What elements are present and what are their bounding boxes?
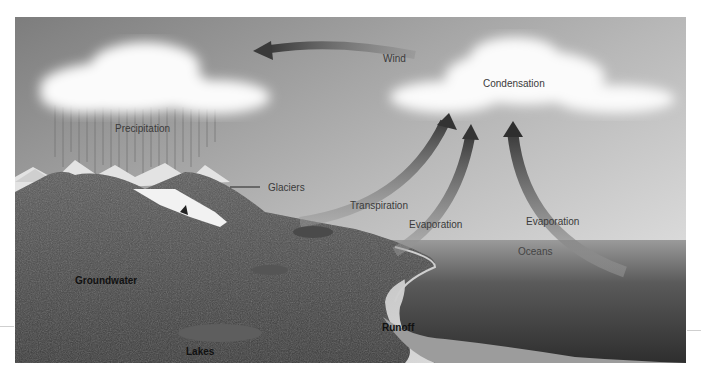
lake [178,324,262,342]
precipitation-label: Precipitation [115,124,170,134]
pond [293,226,333,238]
glaciers-label: Glaciers [268,183,305,193]
groundwater-label: Groundwater [75,276,137,286]
runoff-label: Runoff [382,323,414,333]
page-rule-right [687,330,701,331]
water-cycle-illustration: Wind Condensation Precipitation Glaciers… [15,17,686,363]
condensation-label: Condensation [483,79,545,89]
lakes-label: Lakes [186,347,214,357]
evaporation-land-label: Evaporation [409,220,462,230]
pond [252,265,288,275]
evaporation-ocean-label: Evaporation [526,217,579,227]
wind-label: Wind [383,54,406,64]
transpiration-label: Transpiration [350,201,408,211]
oceans-label: Oceans [518,247,552,257]
page-rule-left [0,326,14,327]
scene-graphic [15,17,686,363]
